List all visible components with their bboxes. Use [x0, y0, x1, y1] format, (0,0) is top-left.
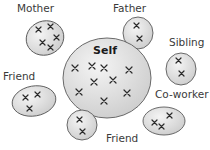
label-father: Father	[113, 2, 147, 14]
label-sibling: Sibling	[169, 36, 204, 48]
label-friend-left: Friend	[3, 70, 35, 82]
ellipse-friend-left	[10, 82, 59, 119]
diagram-canvas: Mother Father Sibling Self	[0, 0, 210, 150]
ellipse-mother	[21, 16, 68, 61]
node-mother: Mother	[17, 2, 69, 60]
node-coworker: Co-worker	[143, 88, 209, 135]
node-friend-left: Friend	[3, 70, 58, 120]
ellipse-friend-bottom	[67, 110, 97, 140]
ellipse-coworker	[143, 107, 185, 135]
label-self: Self	[93, 44, 117, 57]
node-self: Self	[63, 38, 151, 118]
label-friend-bottom: Friend	[106, 132, 138, 144]
label-coworker: Co-worker	[155, 88, 209, 100]
label-mother: Mother	[17, 2, 55, 14]
node-sibling: Sibling	[166, 36, 204, 85]
